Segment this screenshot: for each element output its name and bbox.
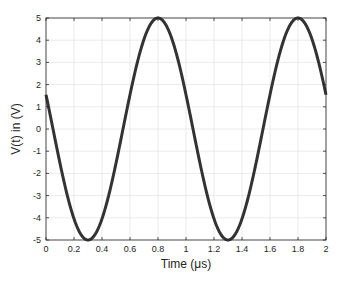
- y-tick-label: -4: [33, 213, 41, 223]
- x-tick-label: 1.4: [236, 244, 249, 254]
- x-tick-label: 1.2: [208, 244, 221, 254]
- x-tick-label: 0.2: [68, 244, 81, 254]
- y-tick-label: 3: [36, 57, 41, 67]
- x-tick-label: 0.4: [96, 244, 109, 254]
- x-tick-label: 1: [183, 244, 188, 254]
- x-tick-labels: 00.20.40.60.811.21.41.61.82: [43, 244, 328, 254]
- y-tick-label: 4: [36, 35, 41, 45]
- x-tick-label: 1.8: [292, 244, 305, 254]
- grid-lines: [46, 18, 326, 240]
- y-tick-label: 5: [36, 13, 41, 23]
- y-tick-label: -1: [33, 146, 41, 156]
- y-tick-label: -5: [33, 235, 41, 245]
- line-chart: 00.20.40.60.811.21.41.61.82 -5-4-3-2-101…: [0, 0, 345, 282]
- y-tick-label: 0: [36, 124, 41, 134]
- x-axis-label: Time (μs): [161, 257, 211, 271]
- y-axis-label: V(t) in (V): [9, 103, 23, 154]
- x-tick-label: 0.6: [124, 244, 137, 254]
- y-tick-label: 1: [36, 102, 41, 112]
- y-tick-labels: -5-4-3-2-1012345: [33, 13, 41, 245]
- y-tick-label: -3: [33, 191, 41, 201]
- y-tick-label: 2: [36, 80, 41, 90]
- x-tick-label: 0: [43, 244, 48, 254]
- y-tick-label: -2: [33, 168, 41, 178]
- x-tick-label: 0.8: [152, 244, 165, 254]
- x-tick-label: 2: [323, 244, 328, 254]
- x-tick-label: 1.6: [264, 244, 277, 254]
